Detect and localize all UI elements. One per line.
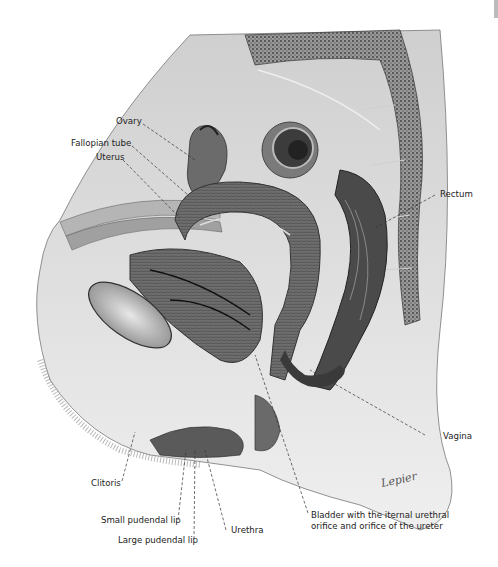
label-ovary: Ovary — [116, 116, 142, 127]
label-clitoris: Clitoris — [91, 478, 121, 489]
label-fallopian-tube: Fallopian tube — [71, 138, 131, 149]
anatomy-figure: Lepier Ovary Fallopian tube Uterus Rectu… — [0, 0, 498, 567]
label-urethra: Urethra — [231, 525, 264, 536]
page-edge-marker — [494, 0, 498, 18]
label-large-pudendal-lip: Large pudendal lip — [118, 535, 198, 546]
pelvis-illustration: Lepier — [0, 0, 498, 567]
label-uterus: Uterus — [96, 152, 124, 163]
label-rectum: Rectum — [440, 189, 473, 200]
label-small-pudendal-lip: Small pudendal lip — [101, 515, 181, 526]
label-vagina: Vagina — [443, 431, 472, 442]
label-bladder: Bladder with the iternal urethral orific… — [311, 510, 476, 532]
